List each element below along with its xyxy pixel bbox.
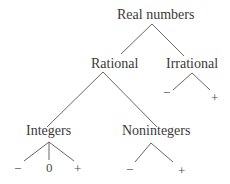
edge-nonintegers-neg — [135, 143, 151, 162]
tree-edges — [0, 0, 230, 184]
edge-nonintegers-pos — [151, 143, 173, 162]
node-integers-zero: 0 — [46, 161, 53, 174]
edge-integers-pos — [49, 142, 74, 161]
number-classification-tree: Real numbers Rational Irrational Integer… — [0, 0, 230, 184]
node-integers-positive: + — [74, 162, 81, 175]
node-irrational-negative: − — [163, 86, 170, 99]
node-rational: Rational — [91, 57, 138, 71]
edge-real-rational — [121, 24, 152, 54]
node-nonintegers: Nonintegers — [122, 124, 190, 138]
node-integers: Integers — [26, 124, 71, 138]
edge-irrational-pos — [192, 73, 210, 90]
node-irrational-positive: + — [211, 91, 218, 104]
edge-rational-integers — [47, 72, 103, 127]
node-nonintegers-negative: − — [126, 163, 133, 176]
node-integers-negative: − — [14, 162, 21, 175]
edge-rational-nonintegers — [103, 72, 157, 127]
edge-irrational-neg — [173, 73, 192, 90]
edge-real-irrational — [152, 24, 184, 56]
edge-integers-neg — [24, 142, 49, 161]
node-real-numbers: Real numbers — [117, 8, 194, 22]
node-nonintegers-positive: + — [178, 164, 185, 177]
node-irrational: Irrational — [166, 57, 218, 71]
